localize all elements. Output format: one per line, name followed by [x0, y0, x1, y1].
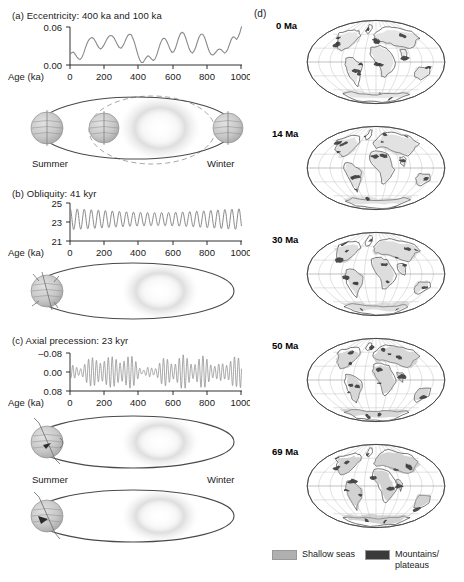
paleomap-14ma: [296, 120, 456, 216]
svg-text:Age (ka): Age (ka): [8, 71, 44, 82]
svg-text:Age (ka): Age (ka): [8, 247, 44, 258]
svg-text:0.00: 0.00: [44, 60, 63, 71]
panel-a-summer-label: Summer: [32, 158, 68, 169]
svg-text:23: 23: [51, 217, 62, 228]
map-label-30ma: 30 Ma: [272, 234, 298, 245]
right-column-panel-d: (d) 0 Ma 14 Ma 30 Ma 50 Ma 69 Ma: [250, 0, 464, 582]
svg-text:400: 400: [130, 71, 146, 82]
legend-label-shallow-seas: Shallow seas: [302, 549, 355, 559]
obliquity-plot: 25 23 21 Age (ka) 0 200 400 600 800 1000: [0, 198, 250, 260]
legend-label-mountains-plateaus: Mountains/plateaus: [395, 549, 439, 570]
left-column: (a) Eccentricity: 400 ka and 100 ka 0.06…: [0, 0, 250, 582]
svg-text:0: 0: [67, 71, 72, 82]
eccentricity-plot: 0.06 0.00 Age (ka) 0 200 400 600 800 100…: [0, 22, 250, 84]
svg-text:800: 800: [199, 71, 215, 82]
legend-entry-mountains-plateaus: Mountains/plateaus: [365, 549, 439, 570]
svg-text:25: 25: [51, 198, 62, 209]
svg-text:200: 200: [96, 71, 112, 82]
svg-text:1000: 1000: [230, 397, 250, 408]
milankovitch-figure: (a) Eccentricity: 400 ka and 100 ka 0.06…: [0, 0, 464, 582]
svg-text:600: 600: [165, 397, 181, 408]
svg-text:400: 400: [130, 247, 146, 258]
panel-c-summer-label: Summer: [32, 474, 68, 485]
paleomap-30ma: [296, 226, 456, 322]
legend-entry-shallow-seas: Shallow seas: [272, 549, 355, 560]
svg-text:0.06: 0.06: [44, 22, 63, 33]
svg-text:21: 21: [51, 236, 62, 247]
map-label-14ma: 14 Ma: [272, 128, 298, 139]
svg-text:0.08: 0.08: [44, 386, 63, 397]
panel-d-letter: (d): [254, 8, 266, 19]
panel-a-title: (a) Eccentricity: 400 ka and 100 ka: [12, 10, 162, 21]
panel-c-title: (c) Axial precession: 23 kyr: [12, 335, 128, 346]
map-label-69ma: 69 Ma: [272, 446, 298, 457]
panel-a-winter-label: Winter: [207, 158, 234, 169]
obliquity-orbit-diagram: [0, 258, 250, 332]
svg-text:0: 0: [67, 397, 72, 408]
svg-text:0.00: 0.00: [44, 367, 63, 378]
svg-text:400: 400: [130, 397, 146, 408]
paleomap-50ma: [296, 332, 456, 428]
svg-text:Age (ka): Age (ka): [8, 397, 44, 408]
map-legend: Shallow seas Mountains/plateaus: [272, 549, 464, 570]
svg-text:200: 200: [96, 397, 112, 408]
map-label-50ma: 50 Ma: [272, 340, 298, 351]
svg-text:–0.08: –0.08: [38, 348, 62, 359]
panel-c-winter-label: Winter: [207, 474, 234, 485]
svg-text:0: 0: [67, 247, 72, 258]
svg-text:800: 800: [199, 247, 215, 258]
paleomap-0ma: [296, 14, 456, 110]
svg-text:1000: 1000: [230, 71, 250, 82]
svg-text:600: 600: [165, 71, 181, 82]
svg-text:1000: 1000: [230, 247, 250, 258]
axial-precession-plot: –0.08 0.00 0.08 Age (ka) 0 200 400 600 8…: [0, 348, 250, 410]
svg-text:200: 200: [96, 247, 112, 258]
legend-swatch-mountains-plateaus: [365, 550, 390, 560]
precession-orbit-diagram-winter: [0, 486, 250, 560]
paleomap-69ma: [296, 438, 456, 534]
svg-text:800: 800: [199, 397, 215, 408]
map-label-0ma: 0 Ma: [276, 20, 297, 31]
legend-swatch-shallow-seas: [272, 550, 297, 560]
svg-text:600: 600: [165, 247, 181, 258]
